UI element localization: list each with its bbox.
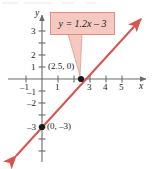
- y-tick-label-neg3: –3: [27, 123, 36, 132]
- point-marker-y-intercept: [39, 124, 45, 130]
- point-label-x-intercept: (2.5, 0): [48, 62, 74, 71]
- equation-callout-text: y = 1.2x – 3: [51, 13, 114, 34]
- x-tick-label-5: 5: [119, 83, 124, 92]
- scan-artifacts: [2, 2, 96, 4]
- equation-callout-box: y = 1.2x – 3: [50, 12, 115, 35]
- y-tick-label-neg2: –2: [27, 99, 36, 108]
- y-tick-label-3: 3: [31, 27, 36, 36]
- x-axis-label: x: [139, 82, 143, 92]
- y-axis-label: y: [35, 9, 39, 19]
- y-tick-label-2: 2: [31, 51, 36, 60]
- x-tick-label-4: 4: [103, 83, 108, 92]
- x-tick-label-1: 1: [55, 83, 60, 92]
- y-tick-label-1: 1: [31, 63, 36, 72]
- point-label-y-intercept: (0, –3): [47, 122, 71, 131]
- line-graph-figure: y x –1 1 3 4 5 3 2 1 –1 –2 –3 (2.5, 0) (…: [0, 0, 156, 169]
- x-tick-label-3: 3: [87, 83, 92, 92]
- y-tick-label-neg1: –1: [27, 88, 36, 97]
- point-marker-x-intercept: [78, 76, 84, 82]
